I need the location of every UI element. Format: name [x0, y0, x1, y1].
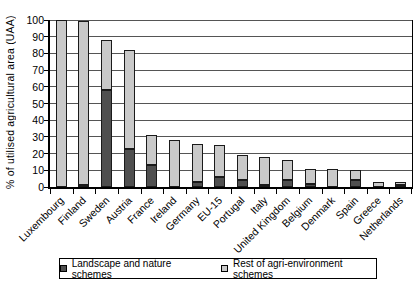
- bar-segment-rest: [305, 169, 316, 184]
- x-tick-14: [367, 189, 368, 194]
- legend-label-landscape: Landscape and nature schemes: [72, 258, 206, 280]
- bar-segment-rest: [169, 140, 180, 187]
- legend: Landscape and nature schemes Rest of agr…: [59, 258, 377, 279]
- bar-segment-rest: [350, 170, 361, 180]
- bar-segment-landscape: [282, 180, 293, 187]
- y-tick-label-80: 80: [14, 48, 44, 58]
- bars-container: [50, 20, 412, 187]
- bar-segment-rest: [259, 157, 270, 185]
- y-tick-10: [44, 170, 48, 171]
- x-tick-6: [186, 189, 187, 194]
- bar-finland: [73, 20, 96, 187]
- x-tick-16: [411, 189, 412, 194]
- x-label-austria: Austria: [102, 194, 134, 226]
- bar-eu-15: [208, 20, 231, 187]
- legend-swatch-light: [221, 265, 228, 272]
- bar-ireland: [163, 20, 186, 187]
- bar-netherlands: [389, 20, 412, 187]
- bar-belgium: [299, 20, 322, 187]
- x-label-ireland: Ireland: [148, 194, 179, 225]
- x-label-sweden: Sweden: [76, 194, 111, 229]
- agri-environment-bar-chart: % of utilised agricultural area (UAA) Lu…: [0, 0, 419, 295]
- bar-segment-rest: [101, 40, 112, 90]
- y-tick-label-70: 70: [14, 65, 44, 75]
- plot-area: [48, 20, 413, 189]
- bar-segment-rest: [282, 160, 293, 180]
- x-label-germany: Germany: [163, 194, 202, 233]
- bar-segment-rest: [327, 169, 338, 187]
- y-tick-label-50: 50: [14, 99, 44, 109]
- x-tick-0: [50, 189, 51, 194]
- bar-united-kingdom: [276, 20, 299, 187]
- bar-segment-landscape: [214, 177, 225, 187]
- x-label-portugal: Portugal: [211, 194, 247, 230]
- bar-segment-landscape: [350, 180, 361, 187]
- x-tick-9: [254, 189, 255, 194]
- y-tick-label-0: 0: [14, 182, 44, 192]
- legend-item-rest: Rest of agri-environment schemes: [221, 258, 376, 280]
- y-tick-60: [44, 86, 48, 87]
- x-tick-13: [344, 189, 345, 194]
- x-tick-11: [299, 189, 300, 194]
- y-tick-label-40: 40: [14, 115, 44, 125]
- legend-label-rest: Rest of agri-environment schemes: [233, 258, 376, 280]
- bar-segment-rest: [78, 21, 89, 185]
- x-label-eu-15: EU-15: [195, 194, 225, 224]
- x-label-united-kingdom: United Kingdom: [231, 194, 292, 255]
- bar-segment-landscape: [124, 149, 135, 187]
- bar-spain: [344, 20, 367, 187]
- bar-segment-landscape: [78, 185, 89, 187]
- bar-segment-landscape: [192, 182, 203, 187]
- bar-greece: [367, 20, 390, 187]
- x-tick-5: [163, 189, 164, 194]
- y-tick-20: [44, 153, 48, 154]
- y-tick-label-10: 10: [14, 165, 44, 175]
- bar-segment-rest: [192, 144, 203, 182]
- y-tick-50: [44, 103, 48, 104]
- x-label-italy: Italy: [247, 194, 269, 216]
- bar-segment-landscape: [259, 185, 270, 187]
- x-label-france: France: [125, 194, 157, 226]
- bar-segment-rest: [237, 155, 248, 180]
- bar-segment-rest: [146, 135, 157, 165]
- bar-segment-rest: [124, 50, 135, 149]
- legend-item-landscape: Landscape and nature schemes: [60, 258, 205, 280]
- y-tick-40: [44, 120, 48, 121]
- bar-segment-rest: [373, 182, 384, 187]
- y-tick-70: [44, 70, 48, 71]
- x-label-finland: Finland: [56, 194, 89, 227]
- x-label-netherlands: Netherlands: [357, 194, 406, 243]
- x-label-denmark: Denmark: [299, 194, 338, 233]
- y-tick-label-20: 20: [14, 149, 44, 159]
- bar-denmark: [322, 20, 345, 187]
- bar-segment-rest: [56, 20, 67, 187]
- y-tick-label-60: 60: [14, 82, 44, 92]
- y-tick-label-90: 90: [14, 32, 44, 42]
- bar-portugal: [231, 20, 254, 187]
- y-tick-label-30: 30: [14, 132, 44, 142]
- x-tick-7: [208, 189, 209, 194]
- y-tick-0: [44, 187, 48, 188]
- bar-segment-landscape: [395, 185, 406, 187]
- x-tick-3: [118, 189, 119, 194]
- x-tick-1: [73, 189, 74, 194]
- bar-germany: [186, 20, 209, 187]
- y-tick-80: [44, 53, 48, 54]
- y-tick-100: [44, 20, 48, 21]
- bar-segment-landscape: [146, 165, 157, 187]
- x-tick-12: [322, 189, 323, 194]
- x-tick-8: [231, 189, 232, 194]
- bar-segment-rest: [214, 145, 225, 177]
- y-tick-label-100: 100: [14, 15, 44, 25]
- legend-swatch-dark: [60, 265, 67, 272]
- x-label-spain: Spain: [332, 194, 359, 221]
- x-tick-10: [276, 189, 277, 194]
- y-tick-30: [44, 136, 48, 137]
- bar-sweden: [95, 20, 118, 187]
- x-label-greece: Greece: [350, 194, 383, 227]
- x-label-luxembourg: Luxembourg: [16, 194, 66, 244]
- x-tick-2: [95, 189, 96, 194]
- x-tick-4: [141, 189, 142, 194]
- bar-segment-landscape: [237, 180, 248, 187]
- bar-luxembourg: [50, 20, 73, 187]
